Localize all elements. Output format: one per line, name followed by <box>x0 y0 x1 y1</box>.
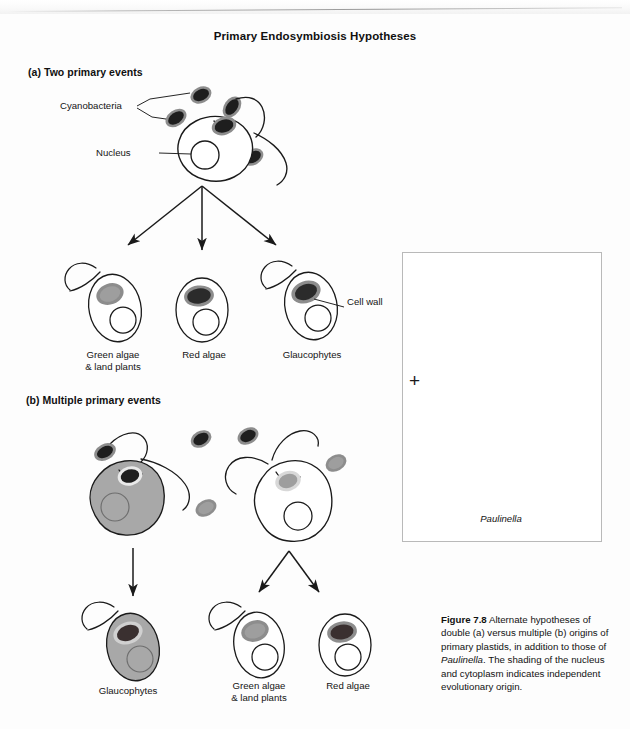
outcome-cell-green-algae-b <box>209 602 289 682</box>
panel-b-artwork <box>82 424 371 686</box>
label-outcome-b-red-algae: Red algae <box>326 680 370 692</box>
cyanobacterium-free-b3 <box>235 424 262 448</box>
label-line-1: Green algae <box>87 349 140 360</box>
nucleus-a <box>191 141 219 169</box>
cyanobacterium-free-b1 <box>91 440 119 465</box>
figure-title: Primary Endosymbiosis Hypotheses <box>0 30 630 42</box>
cyanobacterium-free-a1 <box>188 83 215 107</box>
leader-nucleus <box>159 153 191 154</box>
cyanobacterium-free-a2 <box>219 93 245 121</box>
label-outcome-b-green-algae: Green algae & land plants <box>231 680 286 703</box>
cyanobacterium-engulfed-b-right <box>273 467 304 494</box>
panel-a-label: (a) Two primary events <box>28 66 143 78</box>
leader-cell-wall <box>314 299 344 307</box>
cyanobacterium-engulfed-b-left <box>115 464 144 489</box>
label-paulinella: Paulinella <box>480 513 522 524</box>
label-cyanobacteria: Cyanobacteria <box>60 100 122 112</box>
scan-artifact-line <box>8 7 622 12</box>
nucleus-b-left <box>101 493 129 521</box>
label-outcome-a-red-algae: Red algae <box>182 349 226 361</box>
label-line-1: Green algae <box>233 680 286 691</box>
panel-b-right-arrows <box>259 551 319 592</box>
cyanobacterium-free-a3 <box>162 105 190 131</box>
nucleus-b-right <box>284 502 312 530</box>
caption-organism: Paulinella <box>441 654 483 665</box>
outcome-cell-red-algae-a <box>176 278 228 342</box>
label-outcome-a-green-algae: Green algae & land plants <box>85 349 140 372</box>
cyanobacterium-free-b5 <box>323 451 350 475</box>
label-nucleus: Nucleus <box>96 147 131 159</box>
scan-edge <box>0 0 630 14</box>
outcome-cell-glaucophytes-a <box>261 261 344 344</box>
plus-symbol: + <box>409 371 420 390</box>
host-cell-b-right <box>225 431 331 542</box>
label-cell-wall: Cell wall <box>347 296 383 308</box>
label-line-2: & land plants <box>85 361 140 372</box>
cyanobacterium-free-a4 <box>239 145 266 170</box>
panel-a-artwork <box>65 83 344 347</box>
host-cell-a <box>178 97 287 185</box>
label-outcome-b-glaucophytes: Glaucophytes <box>99 685 158 697</box>
outcome-cell-glaucophytes-b <box>82 602 166 685</box>
figure-page: Primary Endosymbiosis Hypotheses (a) Two… <box>0 0 630 729</box>
cyanobacterium-free-b2 <box>187 427 214 452</box>
caption-figure-number: Figure 7.8 <box>441 614 487 625</box>
leader-cyanobacteria <box>137 93 190 119</box>
cyanobacterium-free-b4 <box>193 496 220 520</box>
label-outcome-a-glaucophytes: Glaucophytes <box>283 349 342 361</box>
paulinella-inset-box <box>402 252 602 542</box>
panel-b-label: (b) Multiple primary events <box>26 394 161 406</box>
outcome-cell-red-algae-b <box>319 614 371 676</box>
host-cell-b-left <box>90 433 189 535</box>
figure-caption: Figure 7.8 Alternate hypotheses of doubl… <box>441 613 619 693</box>
cyanobacterium-engulfed-a <box>209 114 238 139</box>
label-line-2: & land plants <box>231 692 286 703</box>
panel-a-arrows <box>128 186 276 250</box>
outcome-cell-green-algae-a <box>65 263 148 346</box>
